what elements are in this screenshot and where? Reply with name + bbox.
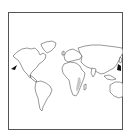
south-america <box>35 81 52 111</box>
india <box>91 68 96 77</box>
north-america <box>13 48 46 78</box>
greenland <box>41 41 56 53</box>
africa <box>62 62 85 96</box>
world-map <box>0 0 129 135</box>
pacific-east-marker-icon <box>117 64 121 71</box>
pacific-west-marker-icon <box>11 65 17 70</box>
southeast-asia <box>104 75 116 80</box>
central-america <box>30 75 37 82</box>
uk <box>62 51 64 55</box>
australia <box>110 82 124 98</box>
madagascar <box>84 84 86 90</box>
